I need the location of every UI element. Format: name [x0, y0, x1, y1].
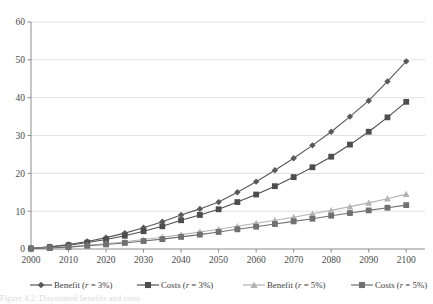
data-point-square — [103, 242, 109, 248]
data-series-group — [28, 58, 410, 251]
data-point-square — [347, 210, 353, 216]
data-point-diamond — [38, 282, 45, 289]
y-tick-label: 20 — [16, 169, 26, 179]
data-point-square — [47, 245, 53, 251]
x-axis-tick-labels: 2000201020202030204020502060207020802090… — [22, 255, 416, 265]
y-tick-label: 50 — [16, 55, 26, 65]
data-point-square — [310, 216, 316, 222]
x-tick-label: 2020 — [97, 255, 116, 265]
series-line — [31, 61, 406, 248]
legend-label: Benefit (r = 3%) — [54, 280, 113, 290]
chart-legend: Benefit (r = 3%)Costs (r = 3%)Benefit (r… — [30, 280, 427, 290]
figure-caption: Figure 4.2. Discounted benefits and cost… — [0, 294, 433, 304]
data-point-square — [366, 129, 372, 135]
data-point-square — [159, 223, 165, 229]
data-point-square — [385, 205, 391, 211]
legend-label: Costs (r = 5%) — [375, 280, 427, 290]
data-point-diamond — [290, 155, 296, 161]
data-point-square — [197, 232, 203, 238]
data-point-square — [403, 99, 409, 105]
data-point-diamond — [272, 167, 278, 173]
x-tick-label: 2010 — [59, 255, 78, 265]
data-point-square — [122, 240, 128, 246]
legend-label: Costs (r = 3%) — [161, 280, 213, 290]
x-tick-label: 2080 — [322, 255, 341, 265]
data-point-square — [385, 114, 391, 120]
data-point-square — [66, 244, 72, 250]
data-point-triangle — [403, 191, 410, 197]
data-point-square — [178, 217, 184, 223]
data-point-square — [234, 199, 240, 205]
data-point-square — [141, 228, 147, 234]
data-point-square — [310, 164, 316, 170]
data-point-square — [403, 202, 409, 208]
data-point-square — [291, 174, 297, 180]
y-tick-label: 40 — [16, 93, 26, 103]
x-tick-label: 2040 — [172, 255, 191, 265]
x-tick-label: 2100 — [397, 255, 416, 265]
x-tick-label: 2000 — [22, 255, 41, 265]
data-point-square — [234, 226, 240, 232]
gridlines-group — [31, 22, 425, 211]
y-tick-label: 60 — [16, 17, 26, 27]
legend-item-2[interactable]: Costs (r = 3%) — [137, 280, 213, 290]
chart-figure: 6050403020100 20002010202020302040205020… — [0, 0, 433, 304]
data-point-square — [159, 236, 165, 242]
y-tick-label: 0 — [20, 244, 25, 254]
legend-label: Benefit (r = 5%) — [267, 280, 326, 290]
y-tick-label: 10 — [16, 207, 26, 217]
data-point-square — [253, 192, 259, 198]
y-axis-tick-labels: 6050403020100 — [16, 17, 26, 254]
data-point-square — [216, 229, 222, 235]
data-point-square — [141, 238, 147, 244]
legend-item-3[interactable]: Benefit (r = 5%) — [243, 280, 326, 290]
data-point-square — [328, 213, 334, 219]
series-benefit-r-3 — [28, 58, 410, 251]
data-point-diamond — [178, 212, 184, 218]
data-point-square — [253, 224, 259, 230]
data-point-square — [347, 142, 353, 148]
data-point-diamond — [253, 178, 259, 184]
data-point-square — [359, 282, 365, 288]
x-tick-label: 2030 — [134, 255, 153, 265]
legend-item-1[interactable]: Benefit (r = 3%) — [30, 280, 113, 290]
data-point-square — [272, 183, 278, 189]
data-point-square — [272, 221, 278, 227]
data-point-diamond — [234, 189, 240, 195]
data-point-diamond — [215, 199, 221, 205]
data-point-square — [145, 282, 151, 288]
x-tick-label: 2090 — [359, 255, 378, 265]
benefit-cost-line-chart: 6050403020100 20002010202020302040205020… — [0, 0, 433, 304]
legend-item-4[interactable]: Costs (r = 5%) — [351, 280, 427, 290]
data-point-square — [216, 206, 222, 212]
data-point-square — [122, 233, 128, 239]
data-point-square — [366, 208, 372, 214]
data-point-square — [84, 243, 90, 249]
x-tick-label: 2050 — [209, 255, 228, 265]
y-tick-label: 30 — [16, 131, 26, 141]
data-point-square — [178, 234, 184, 240]
data-point-square — [291, 218, 297, 224]
data-point-square — [197, 212, 203, 218]
data-point-square — [328, 154, 334, 160]
axes-group — [28, 22, 426, 253]
x-tick-label: 2060 — [247, 255, 266, 265]
data-point-square — [28, 246, 34, 252]
x-tick-label: 2070 — [284, 255, 303, 265]
